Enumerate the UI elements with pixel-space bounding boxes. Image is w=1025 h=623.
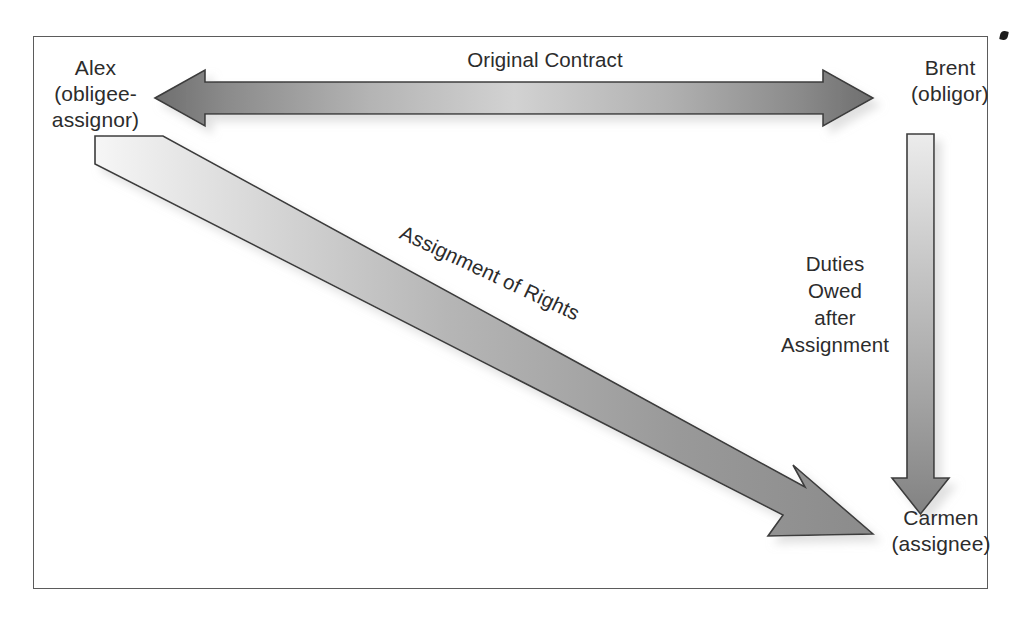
node-label-alex: Alex (obligee- assignor): [18, 55, 173, 132]
arrow-label-original-contract: Original Contract: [420, 47, 670, 72]
arrow-label-duties-owed: Duties Owed after Assignment: [770, 250, 900, 358]
node-label-carmen: Carmen (assignee): [862, 505, 1020, 557]
node-label-brent: Brent (obligor): [880, 55, 1020, 107]
scan-artifact-mark: [999, 30, 1009, 40]
figure-canvas: Alex (obligee- assignor) Brent (obligor)…: [0, 0, 1025, 623]
